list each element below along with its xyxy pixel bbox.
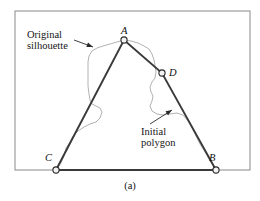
vertex-marker-d [159, 70, 165, 76]
vertex-marker-a [121, 37, 127, 43]
figure-container: Originalsilhouette Initialpolygon A D C … [0, 0, 260, 201]
figure-caption: (a) [0, 180, 260, 191]
vertex-marker-b [213, 167, 219, 173]
annotation-leader-lines [74, 40, 172, 124]
arrowhead-original-silhouette [86, 43, 93, 48]
original-silhouette-curve [56, 40, 216, 170]
polygon-vertex-markers [53, 37, 219, 173]
annotation-initial-polygon: Initialpolygon [141, 126, 175, 149]
vertex-label-b: B [209, 152, 215, 163]
annotation-original-silhouette: Originalsilhouette [27, 29, 68, 52]
vertex-marker-c [53, 167, 59, 173]
vertex-label-a: A [121, 25, 127, 36]
annotation-original-silhouette-line2: silhouette [27, 40, 68, 51]
annotation-initial-polygon-line1: Initial [141, 126, 166, 137]
initial-polygon-outline [56, 40, 216, 170]
annotation-initial-polygon-line2: polygon [141, 137, 175, 148]
vertex-label-c: C [45, 152, 52, 163]
vertex-label-d: D [169, 67, 177, 78]
annotation-original-silhouette-line1: Original [27, 29, 62, 40]
